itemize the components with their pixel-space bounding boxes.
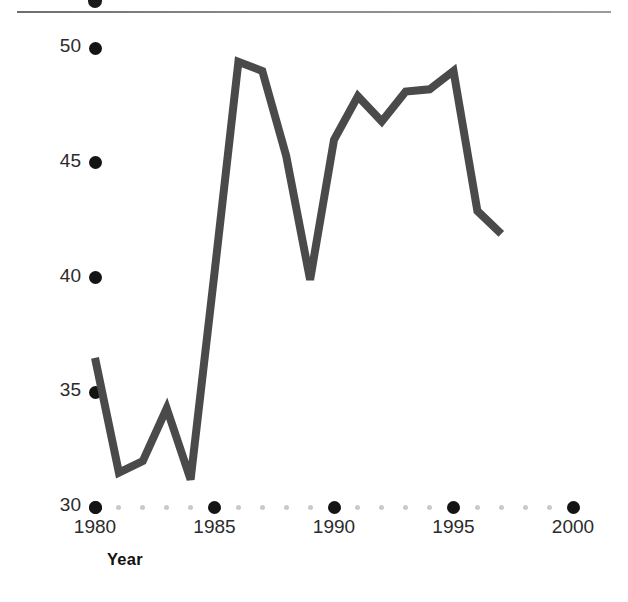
data-series-line	[95, 62, 501, 480]
plot-area	[0, 0, 628, 602]
chart-figure: Producer subsidy equivalent (percentage)…	[0, 0, 628, 602]
